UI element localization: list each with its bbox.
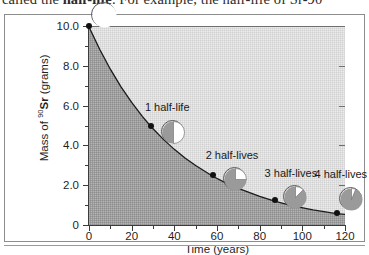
caption-text-after: . For example, the half-life of Sr-90 [112, 0, 322, 7]
y-tick-minor-9 [85, 46, 89, 47]
page-body-text-crop: called the half-life. For example, the h… [0, 0, 369, 12]
y-tick-label-0: 0 [33, 220, 79, 232]
x-tick-minor-50 [196, 225, 197, 229]
caption-text: called the half-life. For example, the h… [2, 0, 322, 8]
pie-half-life-3 [283, 185, 306, 208]
x-tick-minor-30 [153, 225, 154, 229]
y-tick-right-6 [339, 106, 345, 107]
data-point-half-life-4 [334, 210, 340, 216]
x-tick-minor-10 [110, 225, 111, 229]
pie-half-life-4 [339, 187, 362, 210]
x-tick-label-80: 80 [240, 231, 280, 243]
y-tick-minor-3 [85, 165, 89, 166]
figure-bottom-rule [4, 245, 365, 246]
y-axis-title-superscript: 90 [36, 109, 45, 117]
label-half-life-3: 3 half-lives [265, 168, 318, 179]
data-point-half-life-0 [86, 23, 92, 29]
label-half-life-2: 2 half-lives [206, 150, 259, 161]
data-point-half-life-2 [210, 172, 216, 178]
pie-half-life-1 [161, 120, 184, 143]
y-axis-title-prefix: Mass of [38, 118, 50, 161]
label-half-life-4: 4 half-lives [315, 169, 368, 180]
y-tick-2 [83, 185, 89, 186]
y-tick-8 [83, 66, 89, 67]
x-tick-label-100: 100 [282, 231, 322, 243]
x-tick-minor-90 [281, 225, 282, 229]
x-tick-label-60: 60 [197, 231, 237, 243]
y-axis-title-element: Sr [38, 97, 50, 109]
pie-half-life-2 [223, 167, 246, 190]
x-tick-label-20: 20 [112, 231, 152, 243]
label-half-life-1: 1 half-life [145, 102, 190, 113]
x-tick-minor-70 [238, 225, 239, 229]
y-axis-title: Mass of 90Sr (grams) [36, 28, 50, 188]
y-tick-6 [83, 106, 89, 107]
y-tick-right-4 [339, 145, 345, 146]
data-point-half-life-3 [272, 197, 278, 203]
y-tick-minor-5 [85, 126, 89, 127]
y-tick-right-2 [339, 185, 345, 186]
x-tick-label-0: 0 [69, 231, 109, 243]
data-point-half-life-1 [148, 123, 154, 129]
y-tick-minor-7 [85, 86, 89, 87]
pie-half-life-0 [91, 2, 116, 27]
y-tick-right-8 [339, 66, 345, 67]
figure-frame: 02.04.06.08.010.0020406080100120 Mass of… [4, 14, 365, 242]
y-tick-4 [83, 145, 89, 146]
x-tick-label-120: 120 [325, 231, 365, 243]
caption-text-before: called the [2, 0, 63, 7]
y-tick-minor-1 [85, 205, 89, 206]
y-axis-title-suffix: (grams) [38, 55, 50, 98]
x-tick-minor-110 [324, 225, 325, 229]
x-tick-label-40: 40 [154, 231, 194, 243]
